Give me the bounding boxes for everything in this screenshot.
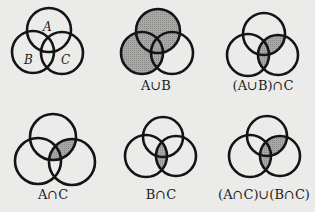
set-label-c: C bbox=[61, 53, 70, 67]
panel-caption: (A∩C)∪(B∩C) bbox=[218, 187, 310, 202]
panel-caption: A∩C bbox=[37, 187, 68, 202]
panel-caption: A∪B bbox=[140, 78, 171, 93]
venn-diagram-sheet: ABCA∪B(A∪B)∩CA∩CB∩C(A∩C)∪(B∩C) bbox=[0, 0, 315, 212]
set-label-b: B bbox=[23, 53, 33, 67]
panel-caption: (A∪B)∩C bbox=[233, 78, 294, 93]
set-label-a: A bbox=[42, 20, 52, 34]
panel-caption: B∩C bbox=[146, 187, 176, 202]
